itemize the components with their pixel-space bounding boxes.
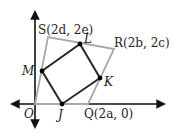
point-k xyxy=(98,76,103,81)
point-l xyxy=(78,42,83,47)
label-k: K xyxy=(103,75,114,89)
label-q: Q(2a, 0) xyxy=(84,107,133,121)
label-o: O xyxy=(24,107,34,121)
point-j xyxy=(60,102,65,107)
label-r: R(2b, 2c) xyxy=(114,36,170,50)
label-m: M xyxy=(21,64,35,78)
label-l: L xyxy=(83,32,92,46)
point-m xyxy=(40,69,45,74)
coordinate-diagram: S(2d, 2e) R(2b, 2c) Q(2a, 0) O J K L M xyxy=(0,0,175,134)
label-j: J xyxy=(55,108,64,122)
